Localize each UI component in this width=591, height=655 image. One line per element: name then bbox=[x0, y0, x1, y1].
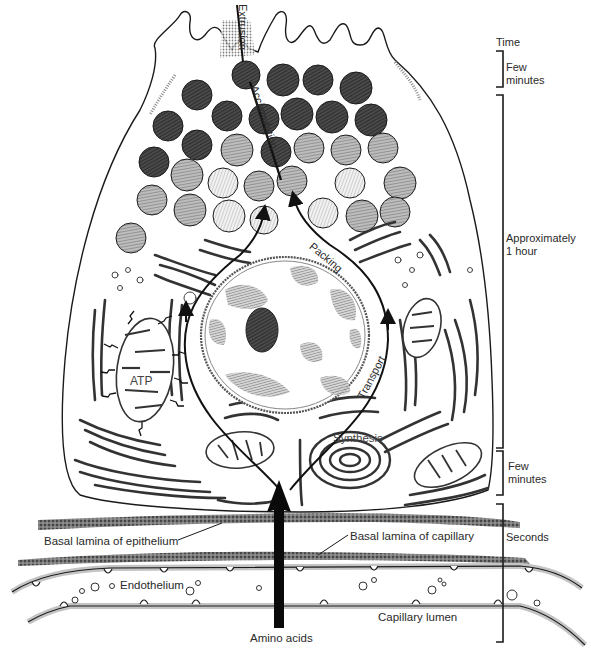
timeline-header: Time bbox=[496, 36, 520, 49]
label-synthesis: Synthesis bbox=[333, 432, 383, 445]
timeline-stage-1-line1: Few bbox=[506, 61, 545, 74]
label-endothelium: Endothelium bbox=[120, 579, 184, 592]
label-basal-lamina-epithelium: Basal lamina of epithelium bbox=[44, 535, 178, 548]
label-capillary-lumen: Capillary lumen bbox=[378, 611, 457, 624]
timeline-stage-2-line2: 1 hour bbox=[506, 245, 576, 258]
timeline-stage-3-line2: minutes bbox=[508, 473, 547, 486]
label-basal-lamina-capillary: Basal lamina of capillary bbox=[350, 530, 474, 543]
secretory-cell-diagram: Extrusion Accumulation Packing Transport… bbox=[0, 0, 591, 655]
timeline-stage-1: Few minutes bbox=[506, 61, 545, 87]
timeline-stage-3: Few minutes bbox=[508, 460, 547, 486]
label-atp: ATP bbox=[130, 375, 152, 388]
label-extrusion: Extrusion bbox=[237, 4, 249, 50]
timeline-brackets bbox=[496, 51, 503, 642]
timeline-stage-2-line1: Approximately bbox=[506, 232, 576, 245]
nucleus bbox=[201, 257, 369, 413]
label-leaders bbox=[178, 523, 348, 555]
timeline-stage-4: Seconds bbox=[506, 531, 549, 544]
timeline-stage-2: Approximately 1 hour bbox=[506, 232, 576, 258]
timeline-stage-3-line1: Few bbox=[508, 460, 547, 473]
timeline-stage-4-line1: Seconds bbox=[506, 531, 549, 544]
diagram-artwork bbox=[0, 0, 591, 655]
label-amino-acids: Amino acids bbox=[250, 632, 313, 645]
timeline-stage-1-line2: minutes bbox=[506, 74, 545, 87]
